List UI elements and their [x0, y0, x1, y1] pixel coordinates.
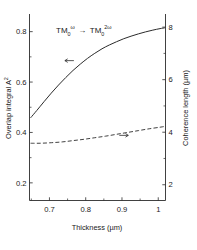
- mode-out-label: TM: [90, 26, 102, 35]
- series-right-axis-arrow-icon: [119, 134, 128, 138]
- mode-out-subscript: 0: [101, 31, 104, 37]
- plot-axes: [30, 14, 166, 201]
- series-left-axis-arrow-icon: [65, 59, 74, 63]
- bottom-axis-tick-labels: 0.70.80.91: [44, 205, 160, 214]
- right-tick-label: 4: [169, 128, 173, 137]
- right-tick-label: 6: [169, 75, 173, 84]
- mode-arrow-icon: →: [78, 26, 86, 35]
- left-tick-label: 0.2: [16, 179, 27, 188]
- bottom-tick-label: 0.8: [80, 205, 91, 214]
- left-axis-title-superscript: 2: [3, 77, 9, 80]
- left-axis-title: Overlap integral A2: [3, 77, 13, 139]
- series-coherence-length-curve: [31, 126, 165, 143]
- mode-annotation: TM0ω→TM02ω: [56, 24, 112, 36]
- bottom-axis-title: Thickness (µm): [72, 223, 123, 232]
- mode-in-label: TM: [56, 26, 68, 35]
- mode-in-subscript: 0: [68, 31, 71, 37]
- bottom-tick-label: 0.7: [44, 205, 55, 214]
- mode-in-superscript: ω: [71, 24, 75, 30]
- data-series-group: [31, 28, 165, 143]
- chart-figure: 0.20.40.60.8 2468 0.70.80.91 TM0ω→TM02ω …: [0, 0, 197, 250]
- left-tick-label: 0.4: [16, 128, 27, 137]
- right-tick-label: 2: [169, 180, 173, 189]
- right-axis-title: Coherence length (µm): [181, 70, 190, 146]
- left-tick-label: 0.8: [16, 27, 27, 36]
- bottom-tick-label: 1: [156, 205, 160, 214]
- bottom-tick-label: 0.9: [117, 205, 128, 214]
- chart-canvas: 0.20.40.60.8 2468 0.70.80.91 TM0ω→TM02ω …: [0, 0, 197, 250]
- mode-out-superscript: 2ω: [104, 24, 111, 30]
- mode-annotation-text: TM0ω→TM02ω: [56, 24, 112, 36]
- series-overlap-integral-curve: [31, 28, 165, 118]
- right-axis-tick-labels: 2468: [169, 23, 173, 190]
- axis-titles: Overlap integral A2 Coherence length (µm…: [3, 70, 190, 232]
- left-axis-tick-labels: 0.20.40.60.8: [16, 27, 27, 187]
- left-tick-label: 0.6: [16, 78, 27, 87]
- right-tick-label: 8: [169, 23, 173, 32]
